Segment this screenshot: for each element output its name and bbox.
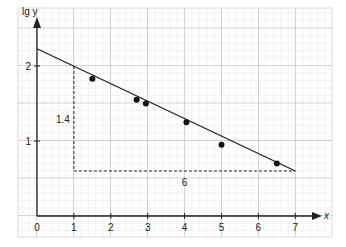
x-tick-label: 3 <box>145 222 151 233</box>
x-tick-label: 4 <box>182 222 188 233</box>
x-tick-label: 0 <box>34 222 40 233</box>
chart: 01234567 12 x lg y 1.46 <box>0 0 346 247</box>
y-tick-label: 2 <box>25 61 31 72</box>
data-point <box>134 97 140 103</box>
x-tick-label: 1 <box>71 222 77 233</box>
x-tick-label: 6 <box>256 222 262 233</box>
x-axis-label: x <box>323 210 330 221</box>
data-point <box>183 119 189 125</box>
data-point <box>274 161 280 167</box>
x-tick-label: 5 <box>219 222 225 233</box>
dx-label: 6 <box>182 177 188 188</box>
data-point <box>143 101 149 107</box>
data-point <box>219 142 225 148</box>
y-tick-label: 1 <box>25 136 31 147</box>
x-tick-label: 7 <box>293 222 299 233</box>
dy-label: 1.4 <box>56 114 70 125</box>
x-tick-label: 2 <box>108 222 114 233</box>
data-point <box>89 76 95 82</box>
y-axis-label: lg y <box>22 6 38 17</box>
